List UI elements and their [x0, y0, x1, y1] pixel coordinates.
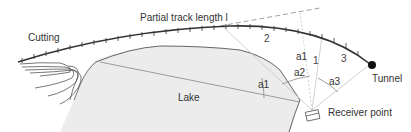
track-label: Partial track length l [140, 13, 228, 23]
tunnel-label: Tunnel [372, 74, 402, 84]
lake-label: Lake [178, 93, 200, 103]
angle-a1-lake-label: a1 [258, 80, 269, 90]
angle-a2-label: a2 [294, 68, 305, 78]
segment-2-label: 2 [264, 34, 270, 44]
propagation-diagram: Partial track length l Cutting Lake Tunn… [0, 0, 411, 132]
segment-3-label: 3 [341, 54, 347, 64]
cutting-label: Cutting [28, 33, 60, 43]
receiver-label: Receiver point [328, 108, 392, 118]
receiver-icon [305, 110, 320, 122]
tunnel-icon [368, 61, 376, 69]
angle-a3-label: a3 [329, 77, 340, 87]
angle-a1-upper-label: a1 [296, 52, 307, 62]
segment-1-label: 1 [313, 56, 319, 66]
dashed-tangent [220, 8, 320, 26]
